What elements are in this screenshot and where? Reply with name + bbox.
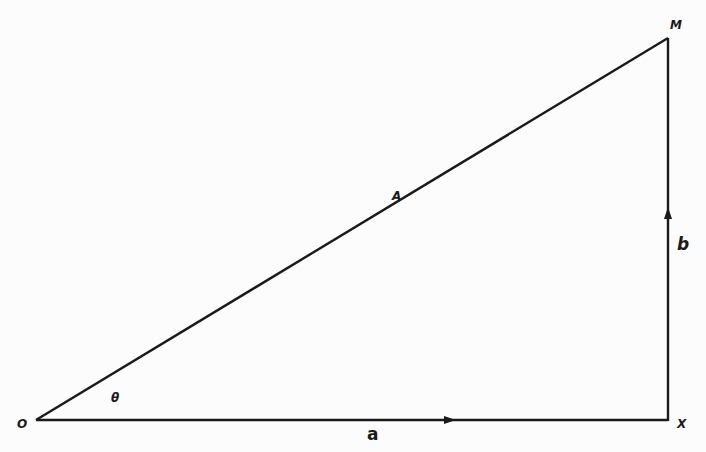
point-O-label: O [17, 418, 27, 430]
arrow-b-icon [664, 207, 672, 219]
hypotenuse-A-line [36, 38, 668, 420]
side-a-label: a [367, 426, 378, 443]
point-M-label: M [670, 19, 682, 31]
triangle-svg [0, 0, 706, 452]
angle-theta-label: θ [111, 392, 119, 404]
hypotenuse-A-label: A [392, 190, 401, 202]
arrow-a-icon [444, 416, 456, 424]
point-X-label: X [677, 418, 686, 430]
side-b-label: b [677, 236, 689, 253]
right-triangle-diagram: O θ A M b a X [0, 0, 706, 452]
